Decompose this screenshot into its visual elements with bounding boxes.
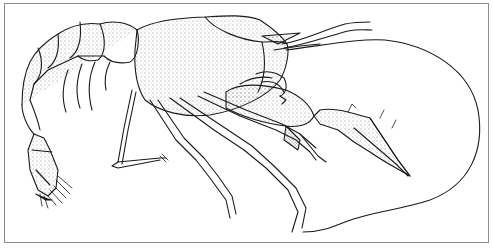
crayfish-illustration: [0, 0, 493, 249]
tail-fan: [28, 134, 58, 196]
abdomen: [22, 22, 137, 105]
cheliped: [226, 85, 314, 127]
